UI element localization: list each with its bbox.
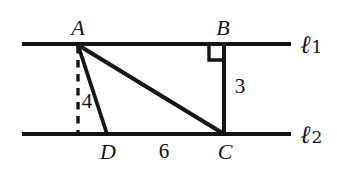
line-label-l2-subscript: 2 bbox=[311, 127, 322, 147]
line-label-l1: ℓ1 bbox=[300, 32, 322, 57]
script-ell-icon: ℓ bbox=[300, 120, 310, 149]
point-label-d: D bbox=[100, 141, 116, 163]
line-label-l2: ℓ2 bbox=[300, 122, 322, 147]
geometry-figure: A B C D 4 3 6 ℓ1 ℓ2 bbox=[0, 0, 337, 172]
point-label-a: A bbox=[71, 17, 84, 39]
point-label-b: B bbox=[216, 17, 229, 39]
length-label-bc: 3 bbox=[235, 76, 246, 97]
right-angle-marker-icon bbox=[209, 45, 224, 60]
line-label-l1-subscript: 1 bbox=[311, 37, 322, 57]
length-label-dc: 6 bbox=[159, 141, 170, 162]
point-label-c: C bbox=[218, 141, 233, 163]
segment-ac bbox=[78, 45, 224, 134]
script-ell-icon: ℓ bbox=[300, 30, 310, 59]
length-label-ad: 4 bbox=[82, 91, 93, 112]
